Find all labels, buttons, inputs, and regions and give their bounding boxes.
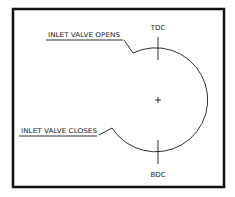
tdc-label: TDC xyxy=(150,24,166,32)
center-crosshair-icon xyxy=(155,97,161,103)
diagram-canvas: TDC BDC INLET VALVE OPENS INLET VALVE CL… xyxy=(0,0,235,197)
inlet-opens-leader xyxy=(124,40,133,53)
bdc-label: BDC xyxy=(150,171,165,179)
inlet-opens-label: INLET VALVE OPENS xyxy=(48,31,120,39)
inlet-closes-leader xyxy=(99,128,112,135)
inlet-closes-label: INLET VALVE CLOSES xyxy=(21,127,97,135)
